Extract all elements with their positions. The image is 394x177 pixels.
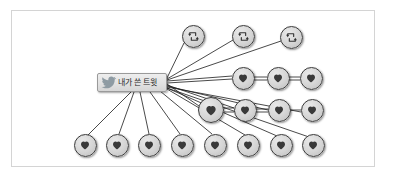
- edge-source-h11: [150, 92, 180, 134]
- retweet-node-1[interactable]: [182, 25, 205, 48]
- edge-source-rt3: [167, 41, 281, 80]
- retweet-icon: [187, 30, 200, 43]
- heart-icon: [239, 104, 251, 116]
- heart-node-6[interactable]: [268, 99, 291, 122]
- heart-icon: [111, 139, 123, 151]
- heart-node-5[interactable]: [234, 99, 257, 122]
- heart-node-9[interactable]: [106, 134, 129, 157]
- heart-node-15[interactable]: [302, 134, 325, 157]
- heart-node-13[interactable]: [237, 134, 260, 157]
- heart-icon: [275, 139, 287, 151]
- twitter-bird-icon: [101, 76, 116, 89]
- heart-node-3[interactable]: [300, 67, 323, 90]
- edge-source-h8: [88, 92, 131, 135]
- retweet-icon: [237, 30, 250, 43]
- heart-node-7[interactable]: [301, 99, 324, 122]
- heart-icon: [242, 139, 254, 151]
- heart-node-4[interactable]: [198, 97, 224, 123]
- heart-node-12[interactable]: [204, 134, 227, 157]
- heart-icon: [176, 139, 188, 151]
- heart-icon: [237, 72, 249, 84]
- heart-node-2[interactable]: [267, 67, 290, 90]
- heart-icon: [307, 139, 319, 151]
- heart-node-8[interactable]: [74, 134, 97, 157]
- retweet-icon: [285, 31, 298, 44]
- heart-icon: [209, 139, 221, 151]
- retweet-node-3[interactable]: [280, 26, 303, 49]
- heart-node-1[interactable]: [232, 67, 255, 90]
- heart-icon: [273, 104, 285, 116]
- heart-icon: [79, 139, 91, 151]
- heart-node-11[interactable]: [171, 134, 194, 157]
- heart-icon: [272, 72, 284, 84]
- edge-source-h10: [140, 92, 149, 134]
- edge-source-h9: [119, 92, 134, 134]
- heart-icon: [305, 72, 317, 84]
- source-tweet-label: 내가 쓴 트윗: [118, 78, 157, 87]
- heart-icon: [204, 103, 218, 117]
- heart-node-10[interactable]: [138, 134, 161, 157]
- heart-icon: [143, 139, 155, 151]
- heart-icon: [306, 104, 318, 116]
- heart-node-14[interactable]: [270, 134, 293, 157]
- screenshot-root: 내가 쓴 트윗: [0, 0, 394, 177]
- edge-source-rt1: [167, 43, 184, 78]
- retweet-node-2[interactable]: [232, 25, 255, 48]
- edge-source-h1b: [167, 79, 232, 83]
- source-tweet-node[interactable]: 내가 쓴 트윗: [97, 73, 167, 92]
